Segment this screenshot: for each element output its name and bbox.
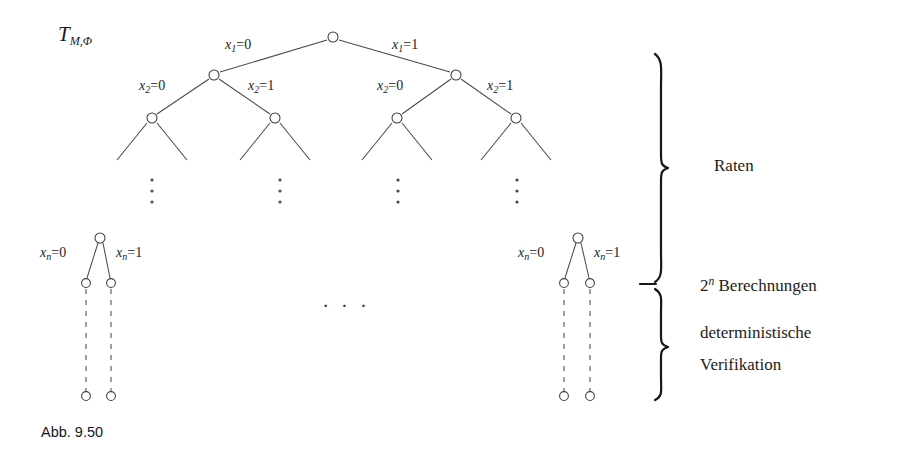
tree-nodes-upper [147, 32, 521, 123]
edge-br-right [581, 243, 589, 278]
edge-label-x1-0: x1=0 [225, 38, 251, 54]
brace-raten [655, 54, 668, 282]
figure-canvas: TM,Φ x1=0 x1=1 x2=0 x2=1 x2=0 x2=1 xn=0 … [0, 0, 901, 449]
annotation-berechnungen: 2n Berechnungen [700, 276, 817, 294]
edge-label-x2-0-left: x2=0 [139, 79, 165, 95]
edge-br-left [565, 243, 576, 278]
tree-node-bl-child-0 [82, 279, 91, 288]
tree-edges-upper [117, 40, 551, 160]
tree-node-l2-0 [209, 70, 219, 80]
edge-label-xn-0-left: xn=0 [40, 246, 66, 262]
edge-l3d-left [481, 123, 511, 160]
bottom-right-cluster [560, 233, 595, 400]
edge-label-xn-1-left: xn=1 [116, 246, 142, 262]
tree-node-br-leaf-0 [560, 392, 569, 401]
tree-node-br-child-1 [586, 279, 595, 288]
edge-l3b-right [280, 123, 310, 160]
tree-node-bl-leaf-1 [107, 392, 116, 401]
edge-l3d-right [521, 123, 551, 160]
edge-l3a-right [157, 123, 187, 160]
tree-node-l3-1 [270, 113, 280, 123]
annotation-verifikation-line-2: Verifikation [700, 356, 781, 373]
edge-label-xn-1-right: xn=1 [594, 246, 620, 262]
tree-node-br-child-0 [560, 279, 569, 288]
edge-label-x2-1-left: x2=1 [248, 79, 274, 95]
tree-node-l2-1 [451, 70, 461, 80]
edge-label-x1-1: x1=1 [392, 38, 418, 54]
tree-node-root [328, 32, 338, 42]
edge-bl-right [103, 243, 110, 278]
annotation-raten: Raten [714, 157, 754, 174]
edge-bl-left [87, 243, 98, 278]
tree-node-l3-0 [147, 113, 157, 123]
vertical-ellipsis-3 [515, 178, 518, 203]
tree-node-l3-2 [392, 113, 402, 123]
bottom-left-cluster [82, 233, 116, 400]
tree-node-l3-3 [511, 113, 521, 123]
annotation-verifikation-line-1: deterministische [700, 324, 811, 341]
edge-l3c-right [402, 123, 432, 160]
edge-label-xn-0-right: xn=0 [518, 246, 544, 262]
edge-l3b-left [240, 123, 270, 160]
edge-l2b-left [402, 79, 451, 114]
vertical-ellipsis-group [150, 178, 518, 203]
tree-diagram-svg [0, 0, 901, 449]
edge-label-x2-0-right: x2=0 [377, 79, 403, 95]
edge-l3c-left [362, 123, 392, 160]
vertical-ellipsis-1 [278, 178, 281, 203]
tree-node-bl-leaf-0 [82, 392, 91, 401]
tree-node-bl-child-1 [107, 279, 116, 288]
tree-node-br-top [573, 233, 583, 243]
horizontal-ellipsis: · · · [322, 295, 370, 317]
figure-caption: Abb. 9.50 [41, 425, 103, 440]
edge-label-x2-1-right: x2=1 [487, 79, 513, 95]
vertical-ellipsis-2 [396, 178, 399, 203]
tree-node-bl-top [95, 233, 105, 243]
brace-verifikation [655, 289, 668, 400]
tree-title: TM,Φ [58, 24, 92, 47]
tree-node-br-leaf-1 [586, 392, 595, 401]
edge-l3a-left [117, 123, 147, 160]
vertical-ellipsis-0 [150, 178, 153, 203]
